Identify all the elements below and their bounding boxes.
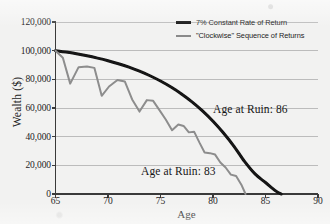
legend-swatch-clockwise-icon (176, 35, 191, 37)
x-axis-tick-label: 85 (251, 196, 281, 206)
y-axis-tick-label: 120,000 (3, 17, 51, 27)
legend-item-constant: 7% Constant Rate of Return (176, 17, 304, 28)
legend-swatch-constant-icon (176, 21, 191, 24)
chart-container: Wealth ($) 020,00040,00060,00080,000100,… (0, 0, 330, 224)
annotation-age-at-ruin-constant: Age at Ruin: 86 (213, 103, 288, 115)
annotation-age-at-ruin-clockwise: Age at Ruin: 83 (141, 165, 216, 177)
chart-legend: 7% Constant Rate of Return "Clockwise" S… (176, 17, 304, 43)
x-axis-tick-label: 70 (93, 196, 123, 206)
y-axis-tick-label: 20,000 (3, 160, 51, 170)
x-axis-tick-label: 80 (198, 196, 228, 206)
y-axis-tick-label: 60,000 (3, 103, 51, 113)
y-axis-tick-labels: 020,00040,00060,00080,000100,000120,000 (3, 0, 51, 224)
x-axis-title: Age (55, 208, 318, 220)
x-axis-tick-label: 65 (41, 196, 71, 206)
legend-label-constant: 7% Constant Rate of Return (196, 18, 287, 27)
y-axis-tick-label: 80,000 (3, 74, 51, 84)
x-axis-tick-label: 90 (303, 196, 330, 206)
x-axis-tick-label: 75 (146, 196, 176, 206)
y-axis-tick-label: 100,000 (3, 46, 51, 56)
legend-label-clockwise: "Clockwise" Sequence of Returns (196, 31, 304, 40)
y-axis-tick-label: 40,000 (3, 132, 51, 142)
legend-item-clockwise: "Clockwise" Sequence of Returns (176, 30, 304, 41)
